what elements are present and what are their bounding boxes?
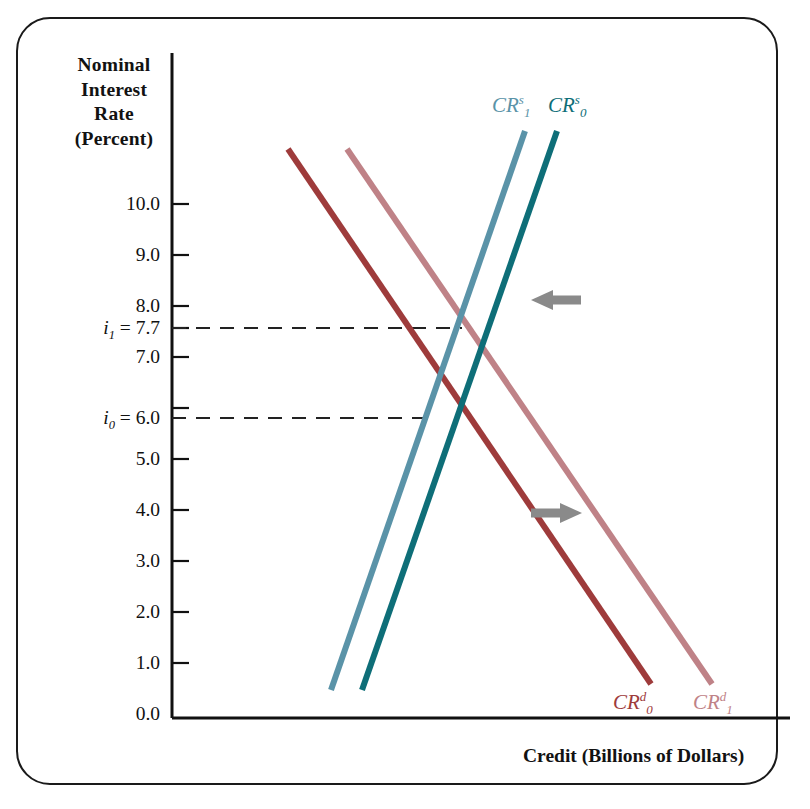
y-tick-label-7: 7.0 — [60, 346, 160, 368]
y-tick-label-0: 0.0 — [60, 703, 160, 725]
curve-label-demand-1: CRd1 — [693, 689, 733, 718]
y-axis-title-line-1: Nominal — [55, 53, 173, 78]
y-axis-title-line-2: Interest — [55, 78, 173, 103]
supply-0-cr: CR — [548, 93, 575, 117]
y-axis-ticks — [172, 204, 189, 663]
curve-supply-1 — [331, 131, 525, 690]
y-tick-label-8: 8.0 — [60, 295, 160, 317]
demand-0-cr: CR — [613, 690, 640, 714]
y-tick-label-10: 10.0 — [60, 193, 160, 215]
figure-canvas: Nominal Interest Rate (Percent) Credit (… — [0, 0, 810, 809]
demand-1-cr: CR — [693, 690, 720, 714]
x-axis-title: Credit (Billions of Dollars) — [523, 745, 744, 767]
curve-label-demand-0: CRd0 — [613, 689, 653, 718]
y-tick-label-1: 1.0 — [60, 652, 160, 674]
equilibrium-label-i0: i0 = 6.0 — [30, 407, 160, 433]
equilibrium-label-i1: i1 = 7.7 — [30, 317, 160, 343]
supply-1-cr: CR — [492, 93, 519, 117]
y-tick-label-3: 3.0 — [60, 550, 160, 572]
demand-1-sub: 1 — [726, 702, 733, 717]
i0-value: 6.0 — [136, 407, 160, 428]
y-axis-title-line-3: Rate — [55, 102, 173, 127]
y-axis-title: Nominal Interest Rate (Percent) — [55, 53, 173, 151]
y-tick-label-4: 4.0 — [60, 499, 160, 521]
i1-equals: = — [115, 317, 136, 338]
curve-demand-0 — [288, 149, 651, 684]
supply-0-sub: 0 — [580, 105, 587, 120]
curve-label-supply-0: CRs0 — [548, 92, 586, 121]
y-tick-label-2: 2.0 — [60, 601, 160, 623]
demand-0-sub: 0 — [646, 702, 653, 717]
y-tick-label-5: 5.0 — [60, 448, 160, 470]
supply-1-sub: 1 — [524, 105, 531, 120]
y-tick-label-9: 9.0 — [60, 244, 160, 266]
curve-label-supply-1: CRs1 — [492, 92, 530, 121]
i0-equals: = — [115, 407, 136, 428]
curve-demand-1 — [347, 149, 712, 684]
supply-shift-arrow — [531, 290, 581, 310]
i1-value: 7.7 — [136, 317, 160, 338]
y-axis-title-line-4: (Percent) — [55, 127, 173, 152]
